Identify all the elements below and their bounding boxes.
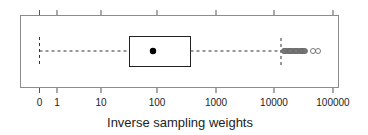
bottom-ticks (40, 88, 334, 93)
tick-label-100000: 100000 (316, 97, 350, 108)
boxplot-chart: 0 1 10 100 1000 10000 100000 Inverse sam… (0, 0, 368, 135)
top-ticks (40, 10, 334, 15)
tick-label-0: 0 (37, 97, 43, 108)
median-dot (150, 48, 156, 54)
iqr-box (130, 37, 191, 67)
outliers-dense (282, 49, 308, 54)
x-axis-title: Inverse sampling weights (107, 115, 253, 130)
tick-label-1000: 1000 (205, 97, 228, 108)
tick-label-10000: 10000 (260, 97, 288, 108)
tick-label-10: 10 (95, 97, 107, 108)
tick-label-100: 100 (149, 97, 166, 108)
outliers-sparse (311, 49, 321, 54)
tick-labels: 0 1 10 100 1000 10000 100000 (37, 97, 350, 108)
tick-label-1: 1 (54, 97, 60, 108)
